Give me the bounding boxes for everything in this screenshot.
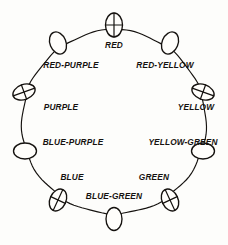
- wheel-node-blue[interactable]: [46, 186, 70, 214]
- node-label-blue-green: BLUE-GREEN: [86, 191, 143, 201]
- node-ellipse-red-yellow: [158, 29, 181, 56]
- node-label-yellow: YELLOW: [178, 102, 215, 112]
- node-label-red-purple: RED-PURPLE: [43, 60, 99, 70]
- node-label-red: RED: [105, 40, 123, 50]
- wheel-ring: [21, 29, 206, 214]
- wheel-node-yellow[interactable]: [190, 81, 217, 103]
- wheel-node-red-purple[interactable]: [46, 29, 69, 56]
- node-label-blue-purple: BLUE-PURPLE: [43, 137, 104, 147]
- wheel-node-red[interactable]: [106, 13, 123, 37]
- color-wheel-diagram: REDRED-YELLOWYELLOWYELLOW-GREENGREENBLUE…: [0, 0, 228, 245]
- node-label-green: GREEN: [139, 172, 170, 182]
- wheel-node-blue-purple[interactable]: [14, 143, 37, 159]
- wheel-node-purple[interactable]: [11, 81, 38, 103]
- color-wheel-canvas: REDRED-YELLOWYELLOWYELLOW-GREENGREENBLUE…: [0, 0, 228, 245]
- node-label-purple: PURPLE: [44, 102, 79, 112]
- node-label-blue: BLUE: [60, 172, 84, 182]
- node-ellipse-blue-purple: [14, 143, 37, 159]
- wheel-labels: REDRED-YELLOWYELLOWYELLOW-GREENGREENBLUE…: [43, 40, 219, 201]
- wheel-node-red-yellow[interactable]: [158, 29, 181, 56]
- node-label-yellow-green: YELLOW-GREEN: [148, 137, 218, 147]
- wheel-node-blue-green[interactable]: [106, 208, 122, 231]
- ring-arc: [21, 94, 27, 151]
- wheel-node-green[interactable]: [158, 186, 182, 214]
- node-ellipse-red-purple: [46, 29, 69, 56]
- node-label-red-yellow: RED-YELLOW: [136, 60, 194, 70]
- node-ellipse-blue-green: [106, 208, 122, 231]
